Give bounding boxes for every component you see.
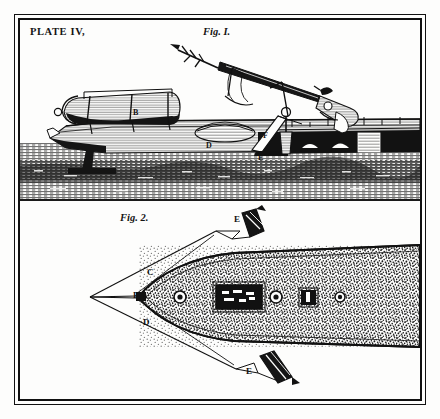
figure-2-illustration (20, 201, 420, 399)
figure-2-label-D: D (143, 318, 150, 327)
figure-2-label-E-upper: E (234, 215, 240, 224)
main-hatch (216, 285, 262, 309)
figure-2-panel: Fig. 2. C B D E E (20, 201, 420, 399)
fig1-label-D: D (206, 141, 212, 150)
deck-port (270, 291, 282, 303)
figure-2-label-B: B (133, 291, 139, 300)
figure-2-caption: Fig. 2. (120, 212, 148, 223)
fig1-label-E: E (258, 153, 263, 162)
engraved-plate: B D F E (0, 0, 440, 419)
plate-title: PLATE IV, (30, 26, 85, 37)
figure-1-panel: B D F E (20, 20, 420, 200)
fig1-label-F: F (263, 131, 268, 140)
figure-1-caption: Fig. I. (203, 26, 230, 37)
fig1-label-B: B (133, 108, 139, 117)
deck-port (335, 292, 345, 302)
figure-2-label-C: C (147, 268, 154, 277)
harpoon-upper (216, 205, 266, 239)
figure-1-illustration: B D F E (20, 20, 420, 200)
deck-port (174, 291, 186, 303)
figure-2-label-E-lower: E (246, 367, 252, 376)
